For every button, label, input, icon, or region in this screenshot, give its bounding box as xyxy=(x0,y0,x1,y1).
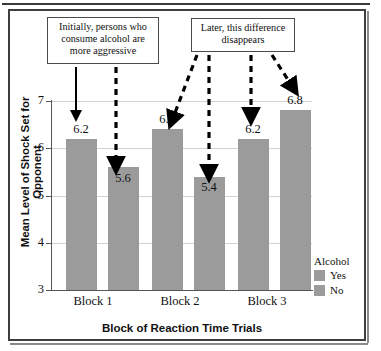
figure-shadow-bottom xyxy=(10,343,368,345)
legend-item-yes[interactable]: Yes xyxy=(314,269,364,281)
bar-label-block3-yes: 6.2 xyxy=(235,122,271,137)
y-tick-label-3: 3 xyxy=(20,282,44,297)
x-axis-line xyxy=(51,290,313,291)
y-tick-mark-4 xyxy=(46,243,52,244)
bar-block1-yes xyxy=(66,139,97,290)
y-tick-mark-6 xyxy=(46,148,52,149)
legend-title: Alcohol xyxy=(314,255,364,267)
gridline-7 xyxy=(52,101,312,102)
bar-label-block1-yes: 6.2 xyxy=(63,122,99,137)
x-tick-label-block-2: Block 2 xyxy=(145,294,215,309)
y-axis-title: Mean Level of Shock Set for Opponent xyxy=(19,80,43,265)
bar-block3-no xyxy=(280,110,311,290)
y-tick-mark-3 xyxy=(46,290,52,291)
legend: Alcohol Yes No xyxy=(314,255,364,299)
y-tick-mark-5 xyxy=(46,196,52,197)
legend-label-no: No xyxy=(330,284,343,296)
x-tick-label-block-3: Block 3 xyxy=(232,294,302,309)
chart-figure: 7 6 5 4 3 Mean Level of Shock Set for Op… xyxy=(0,0,381,351)
legend-swatch-no xyxy=(314,285,325,296)
bar-label-block3-no: 6.8 xyxy=(277,93,313,108)
bar-block3-yes xyxy=(238,139,269,290)
annotation-box-initially: Initially, persons who consume alcohol a… xyxy=(47,17,159,64)
y-tick-mark-7 xyxy=(46,101,52,102)
annotation-box-later: Later, this difference disappears xyxy=(191,18,295,52)
bar-label-block1-no: 5.6 xyxy=(105,171,141,186)
legend-item-no[interactable]: No xyxy=(314,284,364,296)
bar-block2-yes xyxy=(152,129,183,290)
legend-label-yes: Yes xyxy=(330,269,346,281)
bar-label-block2-yes: 6.4 xyxy=(149,112,185,127)
figure-shadow-right xyxy=(367,11,369,343)
figure-top-rule xyxy=(2,3,370,5)
x-tick-label-block-1: Block 1 xyxy=(58,294,128,309)
x-axis-title: Block of Reaction Time Trials xyxy=(52,322,312,334)
legend-swatch-yes xyxy=(314,270,325,281)
bar-label-block2-no: 5.4 xyxy=(191,180,227,195)
